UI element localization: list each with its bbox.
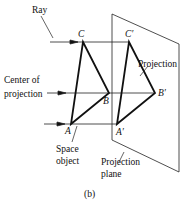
center-label-2: projection: [4, 89, 43, 99]
parallel-projection-diagram: Ray Center of projection Projection Spac…: [0, 0, 182, 208]
point-b-label: B: [103, 96, 109, 106]
point-b-prime-label: B′: [158, 88, 167, 98]
center-label-1: Center of: [4, 75, 40, 85]
rays: [44, 40, 155, 126]
point-c-prime-label: C′: [125, 29, 134, 39]
ray-leader: [41, 16, 53, 38]
projection-plane-label-2: plane: [101, 169, 122, 179]
space-object-leader: [72, 126, 77, 142]
space-object-triangle: [71, 42, 109, 124]
projection-triangle: [117, 42, 155, 124]
point-a-label: A: [64, 126, 71, 136]
figure-caption: (b): [84, 189, 95, 200]
projection-label: Projection: [138, 59, 177, 69]
point-a-prime-label: A′: [115, 127, 125, 137]
space-object-label-1: Space: [56, 144, 79, 154]
ray-label: Ray: [32, 5, 48, 15]
space-object-label-2: object: [56, 156, 80, 166]
point-c-label: C: [78, 29, 85, 39]
projection-plane-label-1: Projection: [101, 157, 140, 167]
